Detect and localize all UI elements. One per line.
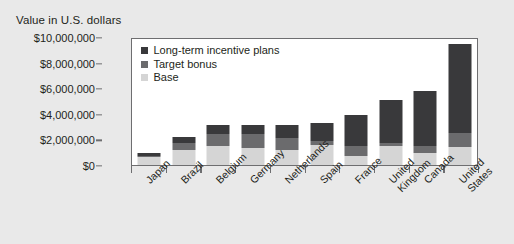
y-axis-tick-label: $2,000,000 <box>40 134 95 146</box>
bar-segment <box>241 125 264 134</box>
bar-slot <box>374 39 409 165</box>
legend-swatch-icon <box>141 61 148 68</box>
chart-legend: Long-term incentive plansTarget bonusBas… <box>141 44 279 85</box>
legend-item[interactable]: Base <box>141 71 279 85</box>
y-axis-tick-mark <box>96 114 102 115</box>
y-axis-tick-label: $0 <box>83 160 95 172</box>
chart-figure: Value in U.S. dollars $0$2,000,000$4,000… <box>0 0 514 244</box>
x-axis-tick-mark <box>131 166 132 173</box>
y-axis-tick-mark <box>96 89 102 90</box>
stacked-bar[interactable] <box>345 115 368 165</box>
bar-slot <box>339 39 374 165</box>
bar-segment <box>345 115 368 146</box>
legend-item-label: Base <box>154 71 179 85</box>
legend-swatch-icon <box>141 47 148 54</box>
stacked-bar[interactable] <box>448 44 471 165</box>
bar-segment <box>414 91 437 146</box>
stacked-bar[interactable] <box>379 100 402 165</box>
bar-segment <box>345 146 368 156</box>
bar-segment <box>207 146 230 165</box>
y-axis-tick-mark <box>96 165 102 166</box>
bar-segment <box>207 125 230 134</box>
y-axis-tick-label: $10,000,000 <box>34 32 95 44</box>
bar-segment <box>241 134 264 148</box>
y-axis-tick-mark <box>96 37 102 38</box>
bar-segment <box>448 133 471 147</box>
legend-item-label: Long-term incentive plans <box>154 44 280 58</box>
bar-segment <box>448 44 471 133</box>
legend-item[interactable]: Target bonus <box>141 58 279 72</box>
bar-slot <box>408 39 443 165</box>
y-axis: $0$2,000,000$4,000,000$6,000,000$8,000,0… <box>0 0 131 244</box>
bar-segment <box>207 134 230 146</box>
bar-segment <box>379 100 402 144</box>
y-axis-tick-mark <box>96 140 102 141</box>
y-axis-tick-label: $4,000,000 <box>40 109 95 121</box>
x-axis: JapanBrazilBelgiumGermanyNetherlandsSpai… <box>131 166 478 244</box>
legend-item[interactable]: Long-term incentive plans <box>141 44 279 58</box>
legend-swatch-icon <box>141 74 148 81</box>
y-axis-tick-label: $8,000,000 <box>40 58 95 70</box>
y-axis-tick-label: $6,000,000 <box>40 83 95 95</box>
y-axis-tick-mark <box>96 63 102 64</box>
stacked-bar[interactable] <box>207 125 230 165</box>
bar-segment <box>276 125 299 138</box>
bar-slot <box>443 39 478 165</box>
stacked-bar[interactable] <box>172 137 195 165</box>
legend-item-label: Target bonus <box>154 58 218 72</box>
